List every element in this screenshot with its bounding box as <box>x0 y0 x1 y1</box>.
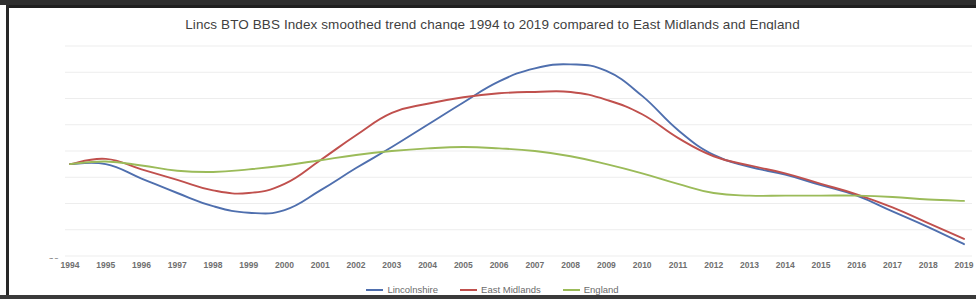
legend-item-england[interactable]: England <box>563 284 619 295</box>
legend-swatch-icon <box>366 289 383 291</box>
chart-legend: LincolnshireEast MidlandsEngland <box>9 284 976 295</box>
screenshot-page: Lincs BTO BBS Index smoothed trend chang… <box>0 0 976 299</box>
legend-label: Lincolnshire <box>387 284 438 295</box>
plot-canvas <box>9 8 976 295</box>
plot-background <box>9 30 976 258</box>
scan-band-bottom <box>0 295 976 299</box>
legend-swatch-icon <box>460 289 477 291</box>
legend-item-east-midlands[interactable]: East Midlands <box>460 284 541 295</box>
legend-label: England <box>584 284 619 295</box>
chart-container: Lincs BTO BBS Index smoothed trend chang… <box>9 8 976 295</box>
legend-swatch-icon <box>563 289 580 291</box>
legend-label: East Midlands <box>481 284 541 295</box>
legend-item-lincolnshire[interactable]: Lincolnshire <box>366 284 438 295</box>
